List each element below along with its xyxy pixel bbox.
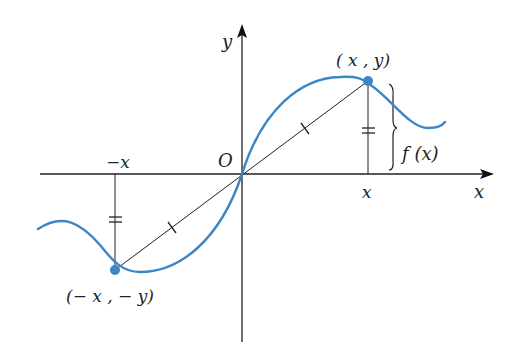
- point-positive: [363, 76, 373, 86]
- brace-f-of-x: [389, 84, 397, 170]
- chord-tick-lower: [168, 222, 176, 233]
- point-negative: [110, 265, 120, 275]
- pos-x-tick-label: x: [362, 182, 372, 202]
- x-axis-label: x: [474, 181, 484, 202]
- point-positive-label: ( x , y): [336, 50, 390, 70]
- neg-x-tick-label: −x: [106, 152, 130, 172]
- y-axis-label: y: [221, 31, 233, 52]
- point-negative-label: (− x , − y): [66, 286, 154, 306]
- chord-tick-upper: [301, 123, 309, 134]
- origin-label: O: [218, 150, 233, 171]
- odd-function-diagram: y x O −x x ( x , y) (− x , − y) f (x): [0, 0, 526, 356]
- brace-label: f (x): [400, 143, 439, 164]
